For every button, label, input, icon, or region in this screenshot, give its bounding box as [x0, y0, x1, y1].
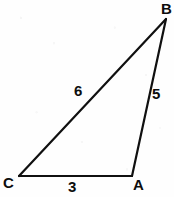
- edge-CB: [19, 19, 166, 176]
- triangle-figure: B C A 6 5 3: [0, 0, 174, 197]
- vertex-label-C: C: [3, 175, 14, 190]
- side-length-label-AB: 5: [152, 86, 160, 101]
- vertex-label-B: B: [161, 1, 172, 16]
- triangle-diagram: [0, 0, 174, 197]
- side-length-label-CA: 3: [68, 179, 76, 194]
- side-length-label-CB: 6: [74, 83, 82, 98]
- edge-AB: [132, 19, 166, 176]
- vertex-label-A: A: [133, 177, 144, 192]
